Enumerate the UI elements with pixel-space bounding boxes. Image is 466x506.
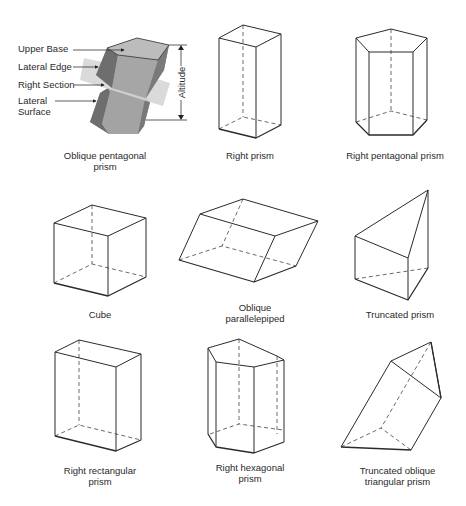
caption-right-prism: Right prism: [195, 151, 305, 162]
caption-right-rectangular-prism: Right rectangular prism: [40, 466, 160, 487]
truncated-oblique-triangular-prism-shape: [341, 342, 441, 450]
caption-right-hexagonal-prism: Right hexagonal prism: [190, 463, 310, 484]
label-lateral-edge: Lateral Edge: [18, 62, 72, 73]
right-prism-shape: [219, 25, 281, 138]
caption-truncated-prism: Truncated prism: [345, 310, 455, 321]
right-hexagonal-prism-shape: [208, 339, 284, 453]
cube-shape: [54, 205, 146, 296]
right-pentagonal-prism-shape: [356, 29, 427, 135]
caption-truncated-oblique-triangular-prism: Truncated oblique triangular prism: [335, 466, 460, 487]
truncated-prism-shape: [355, 190, 428, 300]
label-altitude: Altitude: [176, 63, 187, 103]
label-right-section: Right Section: [18, 80, 75, 91]
caption-oblique-parallelepiped: Oblique parallelepiped: [195, 303, 315, 324]
caption-right-pentagonal-prism: Right pentagonal prism: [335, 151, 455, 162]
label-upper-base: Upper Base: [18, 44, 68, 55]
caption-cube: Cube: [60, 310, 140, 321]
prism-diagram: .e { stroke: #2b2b2b; stroke-width: 1; f…: [0, 0, 466, 506]
label-lateral-surface: Lateral Surface: [18, 96, 51, 117]
caption-oblique-pentagonal-prism: Oblique pentagonal prism: [40, 151, 170, 172]
oblique-parallelepiped-shape: [179, 199, 318, 282]
right-rectangular-prism-shape: [55, 340, 141, 451]
